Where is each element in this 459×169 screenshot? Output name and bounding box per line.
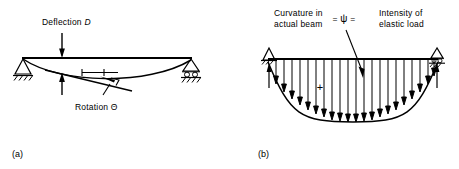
deflection-arrow-down [59,33,65,58]
load-arrow [306,59,311,110]
support-a-right-roller [181,59,201,83]
deflection-arrow-up [59,73,65,96]
curvature-label: Curvature in actual beam [274,8,325,29]
panel-b-caption: (b) [258,149,269,159]
load-arrow [418,59,423,92]
horizontal-reference-line [82,69,118,76]
psi-leader-arrow [346,30,365,78]
load-arrow [346,59,351,122]
load-arrow [282,59,287,92]
load-arrow [290,59,295,99]
rotation-label: Rotation Θ [75,102,118,112]
load-arrow [298,59,303,105]
intensity-label: Intensity of elastic load [379,8,425,29]
load-arrow [274,59,279,84]
deflected-shape-curve [23,59,191,79]
load-arrow [354,59,359,122]
load-arrow [370,59,375,120]
support-a-left-pin [13,59,33,81]
load-arrow [394,59,399,110]
panel-a: Deflection D Rotation Θ (a) [12,17,201,159]
load-arrow [410,59,415,99]
load-arrow [338,59,343,121]
load-arrow [378,59,383,117]
load-arrow [330,59,335,120]
psi-equation-label: = ψ = [333,13,356,24]
support-b-left-pin [261,48,277,65]
panel-a-caption: (a) [12,149,23,159]
plus-sign-label: + [317,81,323,93]
load-arrow [386,59,391,114]
deflection-label: Deflection D [42,17,91,27]
rotation-leader-line [103,84,110,95]
panel-b: + Curvature in actual beam = ψ = Intensi… [258,8,445,159]
distributed-load-arrows [274,59,437,122]
load-arrow [402,59,407,105]
conjugate-beam-figure: Deflection D Rotation Θ (a) [0,0,459,169]
